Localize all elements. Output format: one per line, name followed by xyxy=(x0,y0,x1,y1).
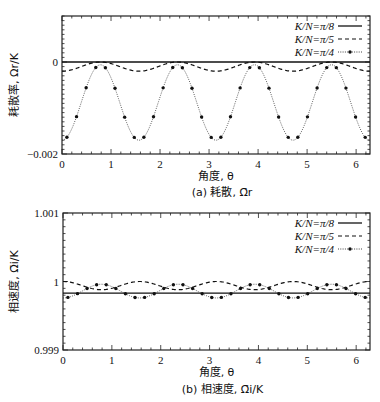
series-marker xyxy=(200,292,203,295)
series-marker xyxy=(142,136,145,139)
series-marker xyxy=(181,283,184,286)
series-marker xyxy=(94,66,97,69)
panel-b: 01234560.99911.001角度, θ相速度, Ω̄i/K(b) 相速度… xyxy=(7,207,370,396)
legend-label: K/N=π/8 xyxy=(294,217,335,229)
series-marker xyxy=(344,86,347,89)
series-marker xyxy=(191,287,194,290)
series-marker xyxy=(84,86,87,89)
y-tick-label: 0 xyxy=(53,56,59,68)
x-tick-label: 4 xyxy=(255,158,261,170)
legend-label: K/N=π/5 xyxy=(294,230,335,242)
series-marker xyxy=(105,283,108,286)
series-marker xyxy=(229,292,232,295)
series-marker xyxy=(133,136,136,139)
series-marker xyxy=(364,296,367,299)
y-tick-label: 1 xyxy=(54,276,60,288)
series-marker xyxy=(66,296,69,299)
x-tick-label: 5 xyxy=(304,158,310,170)
x-axis-label: 角度, θ xyxy=(199,365,235,379)
series-marker xyxy=(210,136,213,139)
legend-label: K/N=π/4 xyxy=(294,46,335,58)
series-marker xyxy=(124,292,127,295)
series-marker xyxy=(220,296,223,299)
x-tick-label: 2 xyxy=(158,354,164,366)
legend-label: K/N=π/4 xyxy=(294,243,335,255)
series-marker xyxy=(65,136,68,139)
x-tick-label: 6 xyxy=(353,354,359,366)
y-axis-label: 相速度, Ω̄i/K xyxy=(7,250,21,313)
x-axis-label: 角度, θ xyxy=(198,169,234,183)
series-marker xyxy=(258,66,261,69)
x-tick-label: 3 xyxy=(207,354,213,366)
legend: K/N=π/8K/N=π/5K/N=π/4 xyxy=(294,20,362,58)
series-marker xyxy=(95,283,98,286)
legend: K/N=π/8K/N=π/5K/N=π/4 xyxy=(294,217,362,255)
legend-marker xyxy=(348,247,351,250)
x-tick-label: 3 xyxy=(206,158,212,170)
series-marker xyxy=(153,292,156,295)
series-marker xyxy=(113,87,116,90)
series-marker xyxy=(296,296,299,299)
series-marker xyxy=(296,136,299,139)
x-tick-label: 0 xyxy=(60,354,66,366)
y-tick-label: 0.999 xyxy=(34,344,59,356)
series-marker xyxy=(229,115,232,118)
series-group xyxy=(63,282,370,300)
series-marker xyxy=(364,136,367,139)
x-tick-label: 0 xyxy=(59,158,65,170)
series-marker xyxy=(162,287,165,290)
series-marker xyxy=(325,283,328,286)
series-marker xyxy=(277,292,280,295)
panel-caption: (a) 耗散, Ω̄r xyxy=(192,185,253,199)
x-tick-label: 5 xyxy=(305,354,311,366)
series-line-3 xyxy=(63,284,370,298)
figure: 0123456−0.0020角度, θ耗散率, Ωr/K(a) 耗散, Ω̄rK… xyxy=(0,0,380,402)
x-tick-label: 2 xyxy=(157,158,163,170)
series-marker xyxy=(354,115,357,118)
series-marker xyxy=(248,283,251,286)
series-line-2 xyxy=(62,62,370,71)
series-marker xyxy=(200,115,203,118)
panel-caption: (b) 相速度, Ω̄i/K xyxy=(182,382,264,396)
series-marker xyxy=(316,287,319,290)
series-marker xyxy=(287,136,290,139)
series-marker xyxy=(267,86,270,89)
series-marker xyxy=(335,66,338,69)
series-marker xyxy=(75,115,78,118)
x-tick-label: 1 xyxy=(108,158,114,170)
series-marker xyxy=(287,296,290,299)
x-tick-label: 4 xyxy=(256,354,262,366)
series-marker xyxy=(258,283,261,286)
series-marker xyxy=(219,136,222,139)
series-marker xyxy=(152,115,155,118)
series-marker xyxy=(306,292,309,295)
legend-label: K/N=π/5 xyxy=(294,33,335,45)
y-tick-label: 1.001 xyxy=(34,207,59,219)
series-group xyxy=(62,62,370,140)
series-marker xyxy=(277,115,280,118)
series-marker xyxy=(238,86,241,89)
series-marker xyxy=(268,287,271,290)
series-line-3 xyxy=(62,65,370,140)
series-marker xyxy=(190,87,193,90)
series-marker xyxy=(354,292,357,295)
series-marker xyxy=(171,66,174,69)
series-marker xyxy=(315,86,318,89)
x-tick-label: 6 xyxy=(353,158,359,170)
series-marker xyxy=(325,66,328,69)
series-marker xyxy=(133,296,136,299)
series-marker xyxy=(143,296,146,299)
series-marker xyxy=(181,66,184,69)
series-marker xyxy=(248,66,251,69)
series-marker xyxy=(123,115,126,118)
x-tick-label: 1 xyxy=(109,354,115,366)
y-tick-label: −0.002 xyxy=(27,148,58,160)
series-marker xyxy=(210,296,213,299)
series-marker xyxy=(76,292,79,295)
legend-label: K/N=π/8 xyxy=(294,20,335,32)
series-marker xyxy=(335,283,338,286)
series-marker xyxy=(306,115,309,118)
y-axis-label: 耗散率, Ωr/K xyxy=(7,52,21,117)
series-marker xyxy=(104,66,107,69)
legend-marker xyxy=(348,50,351,53)
